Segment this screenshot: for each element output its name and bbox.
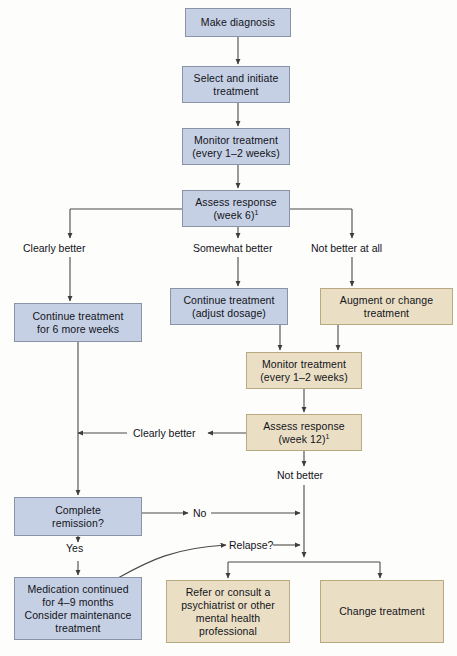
node-monitor1-line1: Monitor treatment: [194, 134, 278, 146]
edge-label-yes: Yes: [66, 542, 83, 554]
node-assess-response-week12[interactable]: Assess response (week 12)1: [246, 414, 362, 451]
node-refer-line4: professional: [199, 625, 257, 637]
node-assess12-line2: (week 12): [278, 433, 325, 445]
node-select-and-initiate-treatment[interactable]: Select and initiate treatment: [182, 66, 290, 103]
node-complete-remission[interactable]: Complete remission?: [14, 497, 142, 536]
node-refer-line2: psychiatrist or other: [181, 599, 275, 611]
node-change-treatment-label: Change treatment: [324, 605, 440, 618]
node-monitor1-line2: (every 1–2 weeks): [192, 147, 279, 159]
node-monitor-treatment-second[interactable]: Monitor treatment (every 1–2 weeks): [246, 352, 362, 389]
node-monitor2-line2: (every 1–2 weeks): [260, 371, 347, 383]
edge-label-clearly-better-top: Clearly better: [23, 242, 85, 254]
edge-label-clearly-better-mid: Clearly better: [133, 427, 195, 439]
node-medication-line1: Medication continued: [27, 583, 128, 595]
node-select-line2: treatment: [213, 85, 258, 97]
flowchart-canvas: Make diagnosis Select and initiate treat…: [0, 0, 457, 656]
node-refer-line3: mental health: [196, 612, 260, 624]
node-assess12-line1: Assess response: [263, 420, 344, 432]
edge-label-not-better: Not better: [277, 469, 323, 481]
node-complete-remission-line1: Complete: [55, 504, 101, 516]
node-medication-line3: Consider maintenance: [24, 609, 131, 621]
node-continue6-line1: Continue treatment: [32, 310, 123, 322]
node-medication-line4: treatment: [55, 622, 100, 634]
node-continue-adjust-line2: (adjust dosage): [192, 307, 266, 319]
node-augment-or-change-treatment[interactable]: Augment or change treatment: [320, 288, 453, 325]
node-assess12-footnote-marker: 1: [326, 432, 330, 439]
edge-medication-to-relapse: [118, 545, 226, 578]
node-assess6-line1: Assess response: [195, 196, 276, 208]
node-medication-line2: for 4–9 months: [42, 596, 113, 608]
node-assess6-line2: (week 6): [213, 209, 254, 221]
edge-label-somewhat-better: Somewhat better: [193, 242, 272, 254]
node-select-line1: Select and initiate: [194, 72, 279, 84]
node-medication-continued[interactable]: Medication continued for 4–9 months Cons…: [14, 577, 142, 640]
node-make-diagnosis-label: Make diagnosis: [189, 16, 287, 29]
node-monitor-treatment-first[interactable]: Monitor treatment (every 1–2 weeks): [182, 128, 290, 165]
node-assess-response-week6[interactable]: Assess response (week 6)1: [182, 190, 290, 227]
node-continue-treatment-6-more-weeks[interactable]: Continue treatment for 6 more weeks: [14, 303, 142, 342]
node-monitor2-line1: Monitor treatment: [262, 358, 346, 370]
node-refer-line1: Refer or consult a: [186, 586, 271, 598]
edge-label-no: No: [193, 507, 206, 519]
node-complete-remission-line2: remission?: [52, 517, 104, 529]
node-change-treatment[interactable]: Change treatment: [320, 580, 444, 643]
node-augment-line2: treatment: [364, 307, 409, 319]
node-continue6-line2: for 6 more weeks: [37, 323, 119, 335]
node-augment-line1: Augment or change: [340, 294, 433, 306]
node-continue-treatment-adjust-dosage[interactable]: Continue treatment (adjust dosage): [170, 288, 288, 325]
node-assess6-footnote-marker: 1: [255, 208, 259, 215]
edge-label-relapse: Relapse?: [229, 539, 273, 551]
edge-label-not-better-at-all: Not better at all: [311, 242, 382, 254]
node-continue-adjust-line1: Continue treatment: [183, 294, 274, 306]
node-make-diagnosis[interactable]: Make diagnosis: [185, 8, 291, 37]
node-refer-or-consult[interactable]: Refer or consult a psychiatrist or other…: [166, 580, 290, 643]
